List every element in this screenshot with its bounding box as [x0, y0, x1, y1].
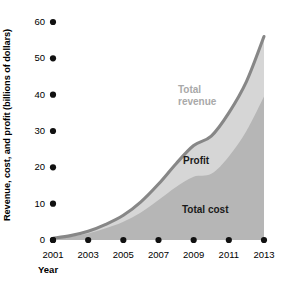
x-axis-title: Year [38, 264, 58, 275]
series-layer [53, 37, 264, 240]
series-label-total-cost: Total cost [182, 204, 228, 216]
y-tick-label: 0 [23, 235, 45, 245]
y-tick-label: 20 [23, 162, 45, 172]
x-tick-label: 2013 [247, 249, 281, 260]
y-tick-markers [50, 19, 56, 243]
y-tick-label: 50 [23, 53, 45, 63]
y-tick-marker [50, 19, 56, 25]
x-tick-marker [191, 237, 197, 243]
chart-figure: Revenue, cost, and profit (billions of d… [0, 0, 290, 285]
x-tick-marker [120, 237, 126, 243]
y-tick-marker [50, 92, 56, 98]
series-label-profit: Profit [183, 155, 209, 167]
x-tick-marker [50, 237, 56, 243]
x-tick-label: 2005 [106, 249, 140, 260]
y-tick-label: 10 [23, 199, 45, 209]
x-tick-label: 2009 [177, 249, 211, 260]
y-tick-marker [50, 164, 56, 170]
x-tick-label: 2001 [36, 249, 70, 260]
x-tick-label: 2011 [212, 249, 246, 260]
x-tick-marker [261, 237, 267, 243]
y-tick-marker [50, 55, 56, 61]
x-tick-marker [85, 237, 91, 243]
x-tick-marker [155, 237, 161, 243]
series-label-total-revenue: Total revenue [178, 84, 216, 108]
x-tick-label: 2003 [71, 249, 105, 260]
y-tick-label: 60 [23, 17, 45, 27]
y-tick-marker [50, 201, 56, 207]
y-tick-label: 30 [23, 126, 45, 136]
x-tick-marker [226, 237, 232, 243]
x-tick-label: 2007 [142, 249, 176, 260]
y-tick-label: 40 [23, 90, 45, 100]
y-tick-marker [50, 128, 56, 134]
